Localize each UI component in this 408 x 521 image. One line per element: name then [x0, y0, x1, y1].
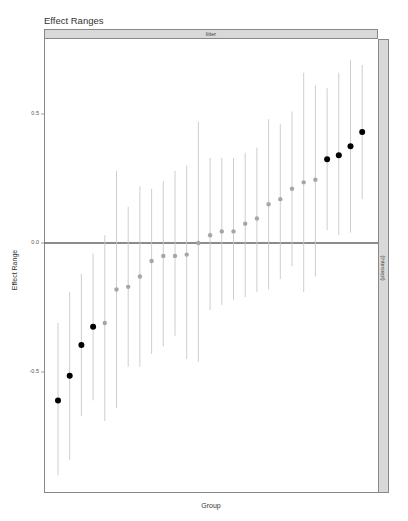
- effect-point: [243, 221, 247, 225]
- y-axis-label: Effect Range: [11, 250, 18, 290]
- effect-point: [138, 274, 142, 278]
- effect-point: [208, 233, 212, 237]
- effect-point: [290, 187, 294, 191]
- effect-point: [149, 259, 153, 263]
- effect-point: [302, 180, 306, 184]
- effect-point: [161, 254, 165, 258]
- effect-point: [185, 252, 189, 256]
- effect-point: [103, 321, 107, 325]
- effect-point: [359, 129, 365, 135]
- effect-point: [348, 143, 354, 149]
- y-tick-label: -0.5: [9, 368, 39, 374]
- effect-point: [90, 324, 96, 330]
- x-axis-label: Group: [201, 502, 220, 509]
- effect-point: [278, 197, 282, 201]
- effect-point: [255, 216, 259, 220]
- y-tick-label: 0.0: [9, 239, 39, 245]
- plot-area: [0, 0, 408, 521]
- effect-point: [67, 373, 73, 379]
- effect-point: [266, 202, 270, 206]
- effect-point: [173, 254, 177, 258]
- effect-point: [196, 241, 200, 245]
- effect-point: [324, 156, 330, 162]
- effect-point: [313, 178, 317, 182]
- effect-point: [55, 397, 61, 403]
- effect-point: [231, 229, 235, 233]
- effect-point: [78, 342, 84, 348]
- effect-point: [336, 152, 342, 158]
- effect-point: [126, 285, 130, 289]
- y-tick-label: 0.5: [9, 110, 39, 116]
- effect-point: [220, 229, 224, 233]
- effect-point: [114, 287, 118, 291]
